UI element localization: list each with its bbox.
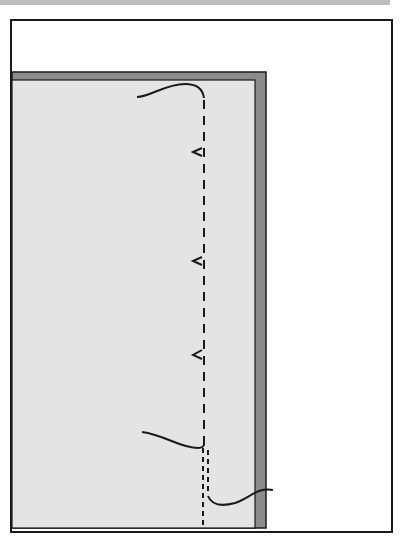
sewing-diagram — [0, 0, 403, 536]
fabric-panel — [12, 72, 266, 528]
